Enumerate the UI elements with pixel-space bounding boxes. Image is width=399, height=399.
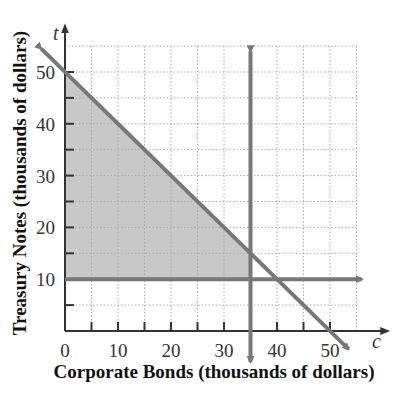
- x-tick-label: 30: [215, 340, 234, 361]
- x-variable-label: c: [372, 330, 381, 352]
- chart: 010203040501020304050tcCorporate Bonds (…: [0, 0, 399, 399]
- x-tick-label: 40: [268, 340, 287, 361]
- y-tick-label: 50: [36, 62, 55, 83]
- x-tick-label: 0: [60, 340, 70, 361]
- plot-area: 010203040501020304050tcCorporate Bonds (…: [9, 22, 388, 383]
- y-axis-title: Treasury Notes (thousands of dollars): [9, 31, 31, 335]
- x-tick-label: 50: [321, 340, 340, 361]
- y-variable-label: t: [53, 22, 59, 44]
- y-tick-label: 20: [36, 217, 55, 238]
- x-tick-label: 10: [109, 340, 128, 361]
- y-tick-label: 30: [36, 166, 55, 187]
- y-tick-label: 10: [36, 269, 55, 290]
- x-tick-label: 20: [162, 340, 181, 361]
- y-tick-label: 40: [36, 114, 55, 135]
- x-axis-title: Corporate Bonds (thousands of dollars): [54, 361, 375, 383]
